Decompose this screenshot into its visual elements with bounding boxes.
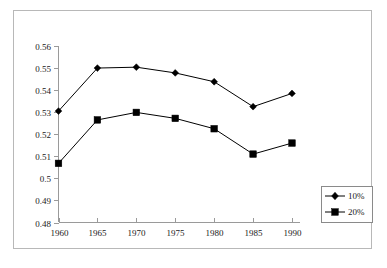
x-axis-tick-label: 1970 xyxy=(128,228,147,238)
y-axis-tick-label: 0.48 xyxy=(35,219,51,229)
series-20-percent xyxy=(55,109,295,167)
legend-box xyxy=(322,187,373,223)
x-axis-tick-label: 1975 xyxy=(167,228,186,238)
x-axis-tick-label: 1980 xyxy=(206,228,225,238)
data-point-marker-square xyxy=(211,125,218,132)
x-axis-tick-label: 1990 xyxy=(284,228,303,238)
y-axis-tick-labels: 0.480.490.50.510.520.530.540.550.56 xyxy=(35,42,51,229)
data-point-marker-square xyxy=(250,151,257,158)
data-point-marker-diamond xyxy=(133,64,140,71)
legend-label-10: 10% xyxy=(348,191,365,201)
y-axis-tick-label: 0.52 xyxy=(35,130,51,140)
y-axis-ticks xyxy=(54,47,59,224)
line-chart-plot: 0.480.490.50.510.520.530.540.550.56 1960… xyxy=(0,0,387,268)
x-axis-ticks xyxy=(60,218,293,223)
y-axis-tick-label: 0.54 xyxy=(35,86,51,96)
x-axis-tick-label: 1965 xyxy=(89,228,108,238)
data-point-marker-square xyxy=(55,160,62,167)
chart-legend: 10% 20% xyxy=(322,187,373,223)
data-point-marker-diamond xyxy=(250,103,257,110)
data-point-marker-square xyxy=(133,109,140,116)
x-axis-tick-labels: 1960196519701975198019851990 xyxy=(51,228,303,238)
data-point-marker-diamond xyxy=(172,70,179,77)
legend-marker-square-icon xyxy=(332,209,339,216)
data-point-marker-square xyxy=(94,117,101,124)
y-axis-tick-label: 0.53 xyxy=(35,108,51,118)
series-10-percent xyxy=(55,64,295,115)
chart-container: 0.480.490.50.510.520.530.540.550.56 1960… xyxy=(0,0,387,268)
data-point-marker-square xyxy=(172,115,179,122)
y-axis-tick-label: 0.5 xyxy=(40,174,52,184)
y-axis-tick-label: 0.56 xyxy=(35,42,51,52)
y-axis-tick-label: 0.49 xyxy=(35,196,51,206)
data-point-marker-diamond xyxy=(211,78,218,85)
x-axis-tick-label: 1960 xyxy=(51,228,70,238)
y-axis-tick-label: 0.51 xyxy=(35,152,51,162)
data-point-marker-diamond xyxy=(289,90,296,97)
y-axis-tick-label: 0.55 xyxy=(35,64,51,74)
x-axis-tick-label: 1985 xyxy=(245,228,264,238)
data-point-marker-square xyxy=(289,140,296,147)
legend-label-20: 20% xyxy=(348,207,365,217)
